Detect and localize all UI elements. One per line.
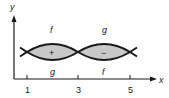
x-axis-label: x bbox=[158, 75, 164, 85]
region1-bottom-label: g bbox=[50, 67, 55, 77]
y-axis-arrow-icon bbox=[12, 15, 17, 22]
region1-top-label: f bbox=[50, 25, 54, 35]
tick-label-1: 1 bbox=[25, 85, 30, 95]
y-axis-label: y bbox=[9, 2, 15, 12]
region2-top-label: g bbox=[102, 25, 107, 35]
region2-sign: − bbox=[101, 48, 106, 58]
diagram-canvas: y x 1 3 5 f g g f + − bbox=[0, 0, 169, 98]
region1-sign: + bbox=[49, 48, 54, 58]
tick-label-3: 3 bbox=[76, 85, 81, 95]
tick-label-5: 5 bbox=[128, 85, 133, 95]
x-axis-arrow-icon bbox=[150, 77, 157, 82]
region2-bottom-label: f bbox=[102, 67, 106, 77]
